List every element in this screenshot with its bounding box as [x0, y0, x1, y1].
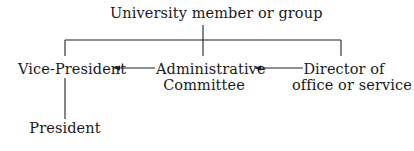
- org-flow-diagram: University member or group Vice-Presiden…: [0, 0, 414, 151]
- node-director-line2: office or service: [292, 78, 396, 92]
- node-admin-committee-line2: Committee: [156, 78, 252, 92]
- node-vice-president: Vice-President: [18, 62, 114, 76]
- node-director-line1: Director of: [292, 62, 396, 76]
- node-university-member: University member or group: [110, 6, 300, 20]
- node-admin-committee-line1: Administrative: [156, 62, 252, 76]
- node-president: President: [28, 121, 102, 135]
